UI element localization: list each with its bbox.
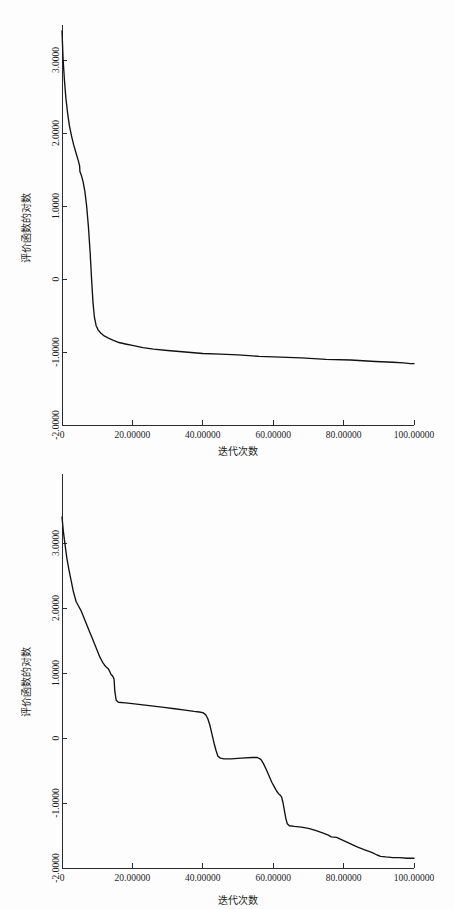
x-tick-label-4: 80.00000 [326, 873, 362, 883]
y-tick-label-0: 3.0000 [51, 530, 61, 556]
x-tick-label-3: 60.00000 [255, 430, 291, 440]
x-tick-label-4: 80.00000 [326, 430, 362, 440]
y-tick-label-4: -1.0000 [51, 337, 61, 367]
x-tick-label-1: 20.00000 [115, 873, 151, 883]
x-tick-label-2: 40.00000 [185, 873, 221, 883]
data-series-line-0 [62, 517, 414, 858]
y-tick-label-2: 1.0000 [51, 660, 61, 686]
y-tick-label-2: 1.0000 [51, 193, 61, 219]
x-tick-label-5: 100.00000 [394, 430, 435, 440]
x-tick-label-1: 20.00000 [115, 430, 151, 440]
chart-figure-1: 020.0000040.0000060.0000080.00000100.000… [0, 0, 454, 460]
y-tick-label-5: -2.0000 [51, 410, 61, 440]
y-tick-label-3: 0 [51, 735, 61, 740]
x-tick-label-3: 60.00000 [255, 873, 291, 883]
x-tick-label-2: 40.00000 [185, 430, 221, 440]
figure-page: 020.0000040.0000060.0000080.00000100.000… [0, 0, 454, 909]
y-tick-label-0: 3.0000 [51, 47, 61, 73]
line-chart-2: 020.0000040.0000060.0000080.00000100.000… [0, 460, 454, 909]
line-chart-1: 020.0000040.0000060.0000080.00000100.000… [0, 0, 454, 460]
chart-figure-2: 020.0000040.0000060.0000080.00000100.000… [0, 460, 454, 909]
y-axis-title: 评价函数的对数 [20, 193, 32, 263]
x-tick-label-5: 100.00000 [394, 873, 435, 883]
y-tick-label-3: 0 [51, 276, 61, 281]
x-axis-title: 迭代次数 [218, 445, 258, 457]
y-tick-label-5: -2.0000 [51, 853, 61, 883]
x-axis-title: 迭代次数 [218, 894, 258, 906]
y-tick-label-1: 2.0000 [51, 595, 61, 621]
y-tick-label-1: 2.0000 [51, 120, 61, 146]
y-axis-title: 评价函数的对数 [20, 647, 32, 717]
data-series-line-0 [62, 31, 414, 364]
y-tick-label-4: -1.0000 [51, 788, 61, 818]
